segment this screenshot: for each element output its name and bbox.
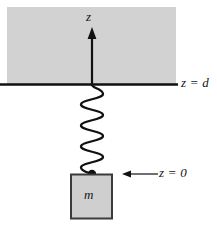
label-z-equals-zero: z = 0 xyxy=(159,166,187,179)
spring-mass-diagram: z z = d z = 0 m xyxy=(0,0,217,227)
diagram-canvas xyxy=(0,0,217,227)
spring-coil xyxy=(81,85,103,174)
label-z-equals-d: z = d xyxy=(181,76,209,89)
z-equals-zero-arrowhead xyxy=(122,171,131,178)
axis-label-z: z xyxy=(86,10,91,23)
label-mass-m: m xyxy=(84,188,94,201)
